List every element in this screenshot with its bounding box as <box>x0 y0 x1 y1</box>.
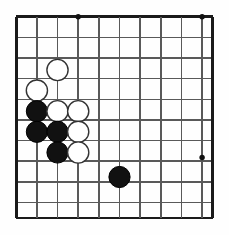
stone-white-white-5[interactable] <box>68 121 89 142</box>
stone-white-white-2[interactable] <box>26 80 47 101</box>
star-point-top-right-icon <box>199 14 204 19</box>
stone-white-white-1[interactable] <box>47 59 68 80</box>
go-diagram-container <box>0 0 229 235</box>
go-board[interactable] <box>0 0 229 235</box>
stone-black-black-4[interactable] <box>47 142 68 163</box>
star-point-right-icon <box>199 155 204 160</box>
stone-white-white-6[interactable] <box>68 142 89 163</box>
stone-white-white-4[interactable] <box>68 101 89 122</box>
star-point-top-left-icon <box>76 14 81 19</box>
stone-black-black-3[interactable] <box>47 121 68 142</box>
stone-white-white-3[interactable] <box>47 101 68 122</box>
stone-black-black-1[interactable] <box>26 101 47 122</box>
stone-black-black-2[interactable] <box>26 121 47 142</box>
stone-black-black-5[interactable] <box>109 166 130 187</box>
